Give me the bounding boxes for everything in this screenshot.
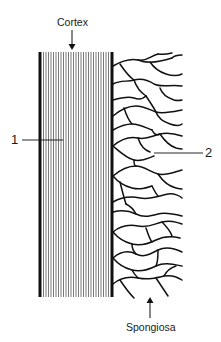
bone-structure-diagram: Cortex 1 2 Spongiosa	[0, 0, 221, 342]
spongiosa-label: Spongiosa	[126, 322, 176, 333]
trabecular-network	[113, 53, 182, 298]
marker-1-label: 1	[11, 133, 18, 146]
cortex-arrow	[69, 30, 76, 50]
cortex-hatching	[44, 52, 109, 297]
cortex-right-border	[111, 52, 114, 297]
diagram-graphics	[0, 0, 221, 342]
cortex-label: Cortex	[57, 17, 88, 28]
cortex-left-border	[39, 52, 42, 297]
marker-2-label: 2	[205, 146, 212, 159]
spongiosa-arrow	[147, 297, 154, 318]
